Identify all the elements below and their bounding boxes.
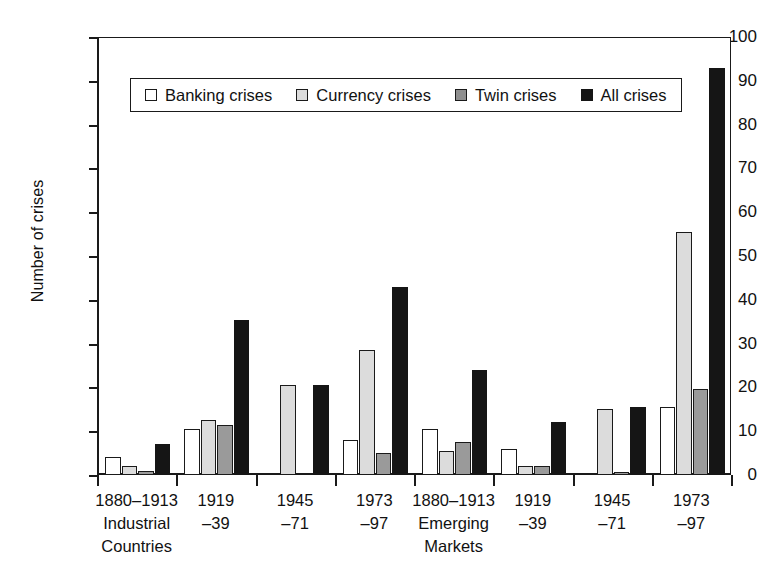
bar-currency-crises [280, 385, 296, 475]
bar-twin-crises [455, 442, 471, 475]
bar-twin-crises [693, 389, 709, 475]
bar-twin-crises [614, 472, 630, 475]
legend-swatch-black-square [581, 89, 593, 101]
bar-all-crises [234, 320, 250, 475]
legend-swatch-white-square [145, 89, 157, 101]
x-tick-mark [731, 475, 733, 486]
x-tick-mark [414, 475, 416, 486]
bar-all-crises [472, 370, 488, 475]
x-label-line-1: 1973 [356, 491, 393, 509]
legend-swatch-light-gray-square [296, 89, 308, 101]
bar-all-crises [155, 444, 171, 475]
x-label-line-3: Markets [402, 535, 505, 558]
legend-swatch-gray-square [455, 89, 467, 101]
bar-currency-crises [201, 420, 217, 475]
x-tick-mark [652, 475, 654, 486]
bar-banking-crises [422, 429, 438, 475]
legend-label: Currency crises [316, 87, 431, 104]
legend-item: Currency crises [296, 87, 431, 104]
legend-item: All crises [581, 87, 667, 104]
x-tick-mark [256, 475, 258, 486]
bar-all-crises [630, 407, 646, 475]
legend-label: Twin crises [475, 87, 557, 104]
chart-legend: Banking crisesCurrency crisesTwin crises… [130, 78, 682, 112]
bar-banking-crises [343, 440, 359, 475]
bar-currency-crises [122, 466, 138, 475]
bar-banking-crises [501, 449, 517, 475]
x-label-line-1: 1919 [515, 491, 552, 509]
bar-twin-crises [138, 471, 154, 475]
bar-banking-crises [660, 407, 676, 475]
legend-label: Banking crises [165, 87, 272, 104]
y-axis-label: Number of crises [29, 141, 47, 341]
x-label-line-1: 1973 [673, 491, 710, 509]
x-tick-mark [335, 475, 337, 486]
x-label-line-1: 1945 [594, 491, 631, 509]
x-tick-mark [493, 475, 495, 486]
x-tick-mark [176, 475, 178, 486]
bar-all-crises [709, 68, 725, 475]
bar-all-crises [551, 422, 567, 475]
bar-currency-crises [597, 409, 613, 475]
legend-item: Twin crises [455, 87, 557, 104]
bar-banking-crises [105, 457, 121, 475]
x-label-line-1: 1919 [198, 491, 235, 509]
legend-item: Banking crises [145, 87, 272, 104]
bar-currency-crises [676, 232, 692, 475]
x-tick-mark [573, 475, 575, 486]
bar-twin-crises [534, 466, 550, 475]
bar-all-crises [313, 385, 329, 475]
x-label-line-1: 1945 [277, 491, 314, 509]
x-label-line-3: Countries [85, 535, 188, 558]
x-tick-mark [97, 475, 99, 486]
bar-currency-crises [518, 466, 534, 475]
bar-twin-crises [217, 425, 233, 475]
bar-banking-crises [184, 429, 200, 475]
bar-all-crises [392, 287, 408, 475]
bar-chart: Number of crises 0102030405060708090100 … [0, 0, 757, 578]
bar-twin-crises [376, 453, 392, 475]
bar-currency-crises [359, 350, 375, 475]
x-label-line-2: –97 [640, 512, 743, 535]
x-axis-group-label: 1973–97 [640, 489, 743, 535]
legend-label: All crises [601, 87, 667, 104]
bar-currency-crises [439, 451, 455, 475]
